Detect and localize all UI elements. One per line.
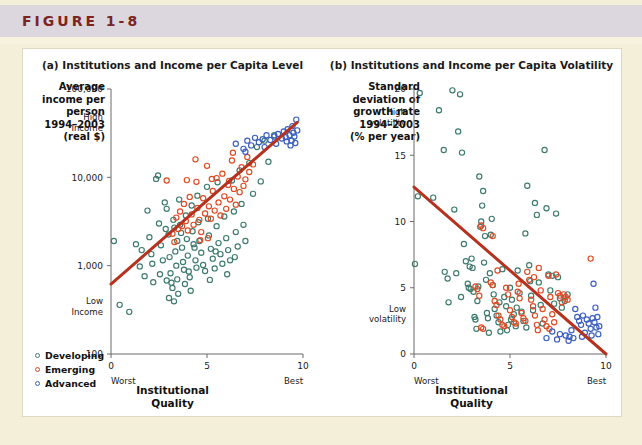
x-tick-label: 10 [600, 361, 612, 371]
data-point [222, 194, 227, 199]
y-annotation-label: High [83, 112, 103, 122]
data-point [187, 275, 192, 280]
data-point [164, 178, 169, 183]
data-point [194, 265, 199, 270]
data-point [186, 269, 191, 274]
data-point [139, 248, 144, 253]
data-point [481, 188, 486, 193]
data-point [516, 281, 521, 286]
data-point [463, 259, 468, 264]
y-tick-label: 20 [395, 84, 407, 94]
data-point [157, 272, 162, 277]
data-point [454, 271, 459, 276]
data-point [550, 312, 555, 317]
data-point [178, 209, 183, 214]
data-point [531, 275, 536, 280]
data-point [201, 262, 206, 267]
data-point [442, 269, 447, 274]
data-point [534, 322, 539, 327]
data-point [226, 248, 231, 253]
data-point [504, 285, 509, 290]
y-annotation-label: High [386, 107, 406, 117]
data-point [233, 202, 238, 207]
data-point [554, 337, 559, 342]
data-point [477, 293, 482, 298]
data-point [171, 299, 176, 304]
data-point [559, 305, 564, 310]
y-annotation-label: Low [86, 296, 103, 306]
data-point [163, 226, 168, 231]
data-point [445, 276, 450, 281]
data-point [480, 203, 485, 208]
data-point [266, 159, 271, 164]
data-point [495, 268, 500, 273]
figure-number-label: FIGURE 1-8 [22, 13, 140, 29]
data-point [252, 135, 257, 140]
data-point [204, 184, 209, 189]
data-point [177, 197, 182, 202]
data-point [245, 138, 250, 143]
data-point [180, 259, 185, 264]
data-point [498, 329, 503, 334]
data-point [137, 264, 142, 269]
data-point [258, 179, 263, 184]
data-point [239, 201, 244, 206]
data-point [231, 186, 236, 191]
data-point [127, 309, 132, 314]
data-point [233, 229, 238, 234]
data-point [532, 200, 537, 205]
data-point [224, 206, 229, 211]
data-point [175, 277, 180, 282]
data-point [156, 221, 161, 226]
data-point [206, 204, 211, 209]
x-tick-label: 5 [204, 361, 210, 371]
data-point [164, 278, 169, 283]
data-point [593, 305, 598, 310]
y-tick-label: 0 [400, 349, 406, 359]
data-point [596, 332, 601, 337]
data-point [457, 92, 462, 97]
data-point [204, 163, 209, 168]
data-point [182, 281, 187, 286]
data-point [195, 193, 200, 198]
data-point [485, 316, 490, 321]
axis-title-line: Quality [23, 397, 322, 410]
data-point [475, 298, 480, 303]
y-tick-label: 15 [395, 151, 406, 161]
data-point [111, 238, 116, 243]
data-point [509, 297, 514, 302]
data-point [188, 288, 193, 293]
legend-item-label: Developing [45, 350, 104, 361]
y-annotation-label: Income [71, 307, 103, 317]
data-point [193, 258, 198, 263]
panel-b-x-axis-title: InstitutionalQuality [322, 384, 621, 410]
data-point [557, 332, 562, 337]
x-tick-label: 5 [507, 361, 513, 371]
data-point [532, 313, 537, 318]
data-point [245, 154, 250, 159]
data-point [193, 157, 198, 162]
data-point [229, 158, 234, 163]
y-annotation-label: volatility [369, 118, 406, 128]
legend-marker-icon [35, 353, 40, 358]
data-point [214, 224, 219, 229]
data-point [241, 222, 246, 227]
data-point [525, 269, 530, 274]
y-annotation-label: volatility [369, 314, 406, 324]
y-tick-label: 10,000 [72, 173, 104, 183]
data-point [456, 129, 461, 134]
data-point [247, 169, 252, 174]
data-point [117, 302, 122, 307]
x-tick-label: 0 [411, 361, 417, 371]
legend: DevelopingEmergingAdvanced [35, 349, 104, 391]
data-point [591, 281, 596, 286]
data-point [241, 183, 246, 188]
panel-b: (b) Institutions and Income per Capita V… [322, 49, 621, 416]
data-point [184, 236, 189, 241]
data-point [573, 306, 578, 311]
data-point [548, 294, 553, 299]
data-point [482, 233, 487, 238]
data-point [569, 328, 574, 333]
y-annotation-label: Low [389, 304, 406, 314]
data-point [461, 241, 466, 246]
